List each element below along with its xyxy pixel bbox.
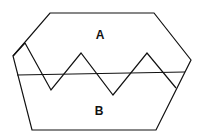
zigzag-boundary [25,43,176,95]
left-edge-segment [13,43,25,56]
region-a-label: A [96,28,105,42]
diagram-canvas: A B [0,0,197,136]
region-b-label: B [95,104,104,118]
